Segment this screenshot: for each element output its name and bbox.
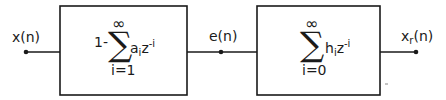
formula-prefix: 1- bbox=[94, 35, 108, 49]
formula-term: aiz-i bbox=[130, 37, 155, 60]
diagram-canvas bbox=[0, 0, 446, 100]
output-label: xr(n) bbox=[401, 29, 433, 48]
input-node bbox=[24, 50, 29, 55]
output-node bbox=[414, 50, 419, 55]
sum-lower-limit: i=1 bbox=[111, 63, 136, 77]
intermediate-label: e(n) bbox=[209, 29, 237, 43]
formula-term: hiz-i bbox=[325, 37, 350, 60]
intermediate-node bbox=[219, 50, 224, 55]
sum-lower-limit: i=0 bbox=[302, 63, 327, 77]
input-label: x(n) bbox=[12, 30, 40, 44]
sigma-icon: ∑ bbox=[300, 27, 324, 61]
sigma-icon: ∑ bbox=[108, 27, 132, 61]
